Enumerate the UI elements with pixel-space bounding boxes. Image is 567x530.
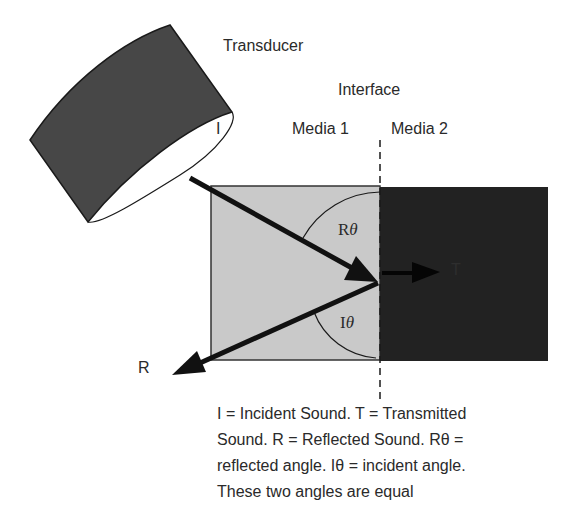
transducer-shape — [30, 25, 233, 222]
interface-label: Interface — [338, 81, 400, 99]
figure-caption: I = Incident Sound. T = Transmitted Soun… — [217, 401, 562, 505]
media-1-label: Media 1 — [292, 120, 349, 138]
caption-line: I = Incident Sound. T = Transmitted — [217, 401, 562, 427]
transducer-label: Transducer — [223, 37, 303, 55]
incident-angle-label: Iθ — [340, 313, 354, 333]
reflected-label: R — [138, 359, 150, 377]
incident-label: I — [216, 120, 220, 138]
caption-line: These two angles are equal — [217, 479, 562, 505]
media-2-label: Media 2 — [391, 120, 448, 138]
reflected-angle-label: Rθ — [338, 220, 358, 240]
caption-line: reflected angle. Iθ = incident angle. — [217, 453, 562, 479]
caption-line: Sound. R = Reflected Sound. Rθ = — [217, 427, 562, 453]
transmitted-label: T — [451, 261, 461, 279]
